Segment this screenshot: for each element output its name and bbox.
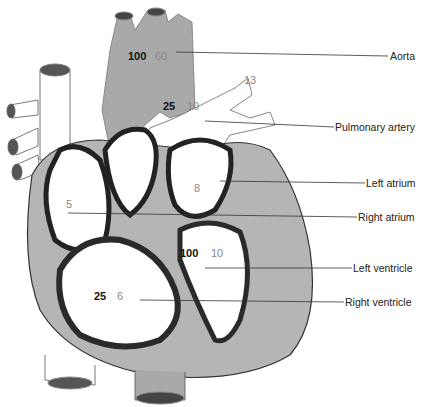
label-aorta: Aorta — [390, 50, 415, 62]
pulmonary-diastolic-value: 10 — [187, 100, 199, 112]
label-right-atrium: Right atrium — [358, 211, 415, 223]
left-atrium-value: 8 — [194, 182, 200, 194]
left-ventricle-diastolic-value: 10 — [211, 247, 223, 259]
left-ventricle-systolic-value: 100 — [180, 247, 198, 259]
aorta-diastolic-value: 60 — [155, 50, 167, 62]
pulmonary-branch-value: 13 — [244, 74, 256, 86]
heart-diagram: 100 60 13 25 10 8 5 100 10 25 6 Aorta Pu… — [0, 0, 421, 407]
aorta-systolic-value: 100 — [128, 50, 146, 62]
label-left-ventricle: Left ventricle — [353, 262, 413, 274]
right-atrium-value: 5 — [66, 198, 72, 210]
label-right-ventricle: Right ventricle — [345, 296, 412, 308]
pulmonary-systolic-value: 25 — [163, 100, 175, 112]
label-left-atrium: Left atrium — [366, 177, 416, 189]
right-ventricle-systolic-value: 25 — [94, 290, 106, 302]
right-atrium-chamber — [46, 147, 109, 250]
pulmonary-veins — [7, 100, 40, 180]
heart-illustration — [0, 0, 421, 407]
right-ventricle-diastolic-value: 6 — [117, 290, 123, 302]
label-pulmonary-artery: Pulmonary artery — [335, 121, 415, 133]
